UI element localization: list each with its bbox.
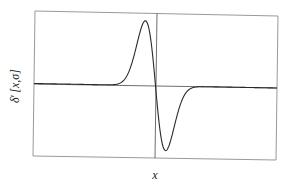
derivative-gaussian-chart: x δ′[x,σ] — [0, 0, 290, 184]
svg-text:δ′[x,σ]: δ′[x,σ] — [8, 69, 22, 103]
y-label-prime: ′ — [8, 94, 22, 97]
y-axis-label: δ′[x,σ] — [8, 69, 22, 103]
x-axis-label: x — [151, 168, 158, 182]
y-label-args: [x,σ] — [8, 69, 22, 93]
